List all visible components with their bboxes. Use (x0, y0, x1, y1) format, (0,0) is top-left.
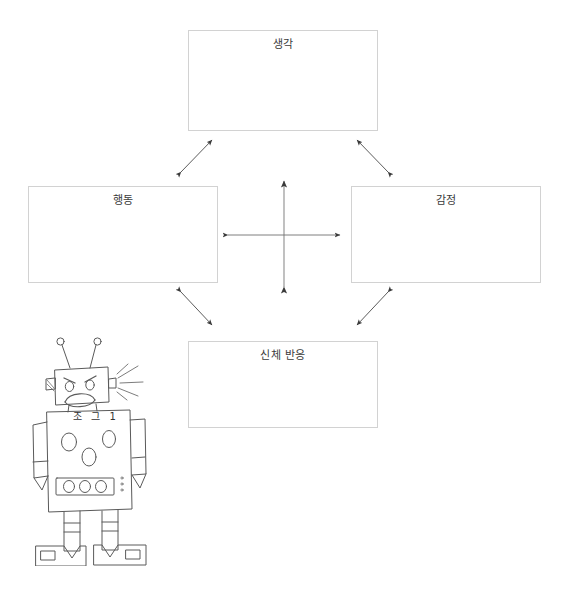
chest-dials-icon (62, 431, 116, 467)
robot-eyes-icon (65, 380, 94, 392)
frown-mouth-icon (65, 394, 95, 407)
node-label-body-response: 신체 반응 (189, 349, 377, 363)
robot-illustration: 조 그 1 (24, 326, 164, 566)
connector-behavior-body (181, 292, 212, 325)
indicator-dots-icon (121, 477, 123, 491)
node-box-body[interactable]: 신체 반응 (188, 341, 378, 428)
diagram-canvas: 생각 행동 감정 신체 반응 (0, 0, 569, 594)
antenna-right-icon (90, 338, 101, 368)
node-label-behavior: 행동 (29, 194, 217, 208)
node-box-behavior[interactable]: 행동 (28, 186, 218, 283)
button-bar-icon (56, 478, 114, 495)
connector-emotion-body (357, 292, 388, 325)
arm-right-icon (130, 419, 146, 488)
node-box-thought[interactable]: 생각 (188, 30, 378, 131)
antenna-left-icon (57, 338, 70, 368)
leg-right-icon (102, 510, 118, 550)
robot-torso (47, 410, 132, 512)
node-box-emotion[interactable]: 감정 (351, 186, 541, 283)
connector-thought-emotion (357, 140, 388, 172)
leg-left-icon (64, 511, 80, 551)
robot-head (46, 367, 116, 405)
spark-lines-icon (117, 364, 143, 400)
arm-left-icon (33, 422, 48, 490)
foot-left-icon (36, 546, 86, 566)
ear-right-icon (109, 378, 116, 388)
robot-sketch-svg (24, 326, 164, 566)
node-label-thought: 생각 (189, 38, 377, 52)
robot-chest-label: 조 그 1 (54, 408, 138, 423)
node-label-emotion: 감정 (352, 194, 540, 208)
connector-thought-behavior (181, 140, 212, 172)
